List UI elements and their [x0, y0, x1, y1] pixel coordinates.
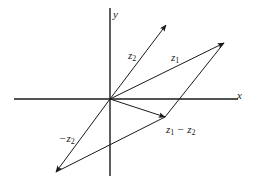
- y-axis-label: y: [113, 9, 118, 20]
- label-diff-suffix-sub: 2: [192, 128, 196, 137]
- label-neg-z2: −z2: [59, 133, 75, 146]
- diagram-svg: [0, 0, 257, 185]
- label-neg-z2-sub: 2: [71, 137, 75, 146]
- vector-z1-minus-z2-arrow: [110, 99, 165, 117]
- label-z1-sub: 1: [175, 56, 179, 65]
- label-diff-suffix: − z: [174, 123, 191, 135]
- vector-z2-arrow: [110, 25, 166, 99]
- label-z2-sub: 2: [132, 54, 136, 63]
- label-z2: z2: [128, 50, 136, 63]
- label-z1: z1: [171, 52, 179, 65]
- vector-subtraction-diagram: y x z2 z1 −z2 z1 − z2: [0, 0, 257, 185]
- x-axis-label: x: [237, 90, 242, 101]
- label-z1-minus-z2: z1 − z2: [166, 124, 196, 137]
